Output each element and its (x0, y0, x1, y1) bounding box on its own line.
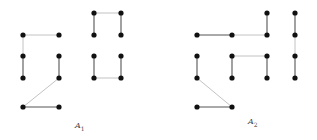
graph-node (264, 10, 269, 15)
graph-node (20, 75, 25, 80)
graph-node (91, 32, 96, 37)
graph-node (56, 75, 61, 80)
graph-node (229, 32, 234, 37)
graph-node (91, 53, 96, 58)
graph-node (229, 104, 234, 109)
graph-node (118, 32, 123, 37)
graph-edge (197, 78, 232, 107)
diagram-label-a2: A2 (248, 117, 258, 128)
graph-node (56, 104, 61, 109)
graph-node (194, 32, 199, 37)
graph-node (91, 10, 96, 15)
graph-node (264, 53, 269, 58)
graph-node (20, 104, 25, 109)
graph-node (56, 53, 61, 58)
graph-node (292, 10, 297, 15)
diagram-canvas (0, 0, 317, 140)
graph-edge (23, 78, 59, 107)
graph-node (194, 53, 199, 58)
graph-node (118, 75, 123, 80)
graph-node (229, 75, 234, 80)
diagram-label-a1: A1 (75, 121, 85, 132)
graph-node (118, 53, 123, 58)
graph-node (264, 32, 269, 37)
edges-layer (23, 13, 295, 107)
graph-node (20, 32, 25, 37)
graph-node (194, 104, 199, 109)
graph-node (56, 32, 61, 37)
graph-node (91, 75, 96, 80)
graph-node (20, 53, 25, 58)
graph-node (118, 10, 123, 15)
graph-node (292, 32, 297, 37)
graph-node (229, 53, 234, 58)
graph-node (264, 75, 269, 80)
nodes-layer (20, 10, 297, 109)
graph-node (194, 75, 199, 80)
graph-node (292, 53, 297, 58)
graph-node (292, 75, 297, 80)
